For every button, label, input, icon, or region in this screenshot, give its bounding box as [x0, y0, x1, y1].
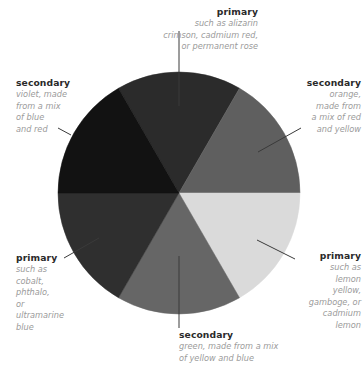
label-lower-right-primary: primary such as lemon yellow, gamboge, o… [288, 250, 361, 332]
label-title: secondary [16, 77, 86, 89]
label-upper-left-secondary: secondary violet, made from a mix of blu… [16, 77, 86, 135]
label-description: such as alizarin crimson, cadmium red, o… [148, 18, 258, 53]
label-description: green, made from a mix of yellow and blu… [179, 341, 329, 364]
label-title: secondary [288, 77, 361, 89]
label-bottom-secondary: secondary green, made from a mix of yell… [179, 329, 329, 364]
label-description: orange, made from a mix of red and yello… [288, 89, 361, 135]
label-title: primary [148, 6, 258, 18]
label-title: primary [16, 252, 86, 264]
label-description: such as lemon yellow, gamboge, or cadmiu… [288, 262, 361, 332]
label-description: violet, made from a mix of blue and red [16, 89, 86, 135]
label-title: primary [288, 250, 361, 262]
label-upper-right-secondary: secondary orange, made from a mix of red… [288, 77, 361, 135]
label-top-primary: primary such as alizarin crimson, cadmiu… [148, 6, 258, 53]
label-lower-left-primary: primary such as cobalt, phthalo, or ultr… [16, 252, 86, 334]
label-description: such as cobalt, phthalo, or ultramarine … [16, 264, 86, 334]
label-title: secondary [179, 329, 329, 341]
